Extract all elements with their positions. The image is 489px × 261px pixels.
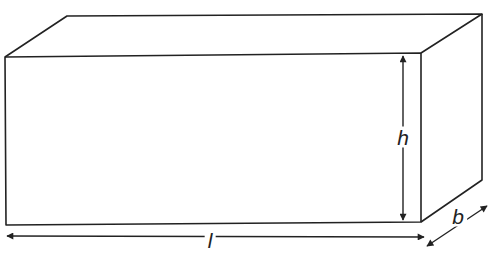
length-label: l <box>205 230 216 251</box>
right-face <box>421 14 482 222</box>
breadth-label: b <box>449 206 467 227</box>
length-arrow <box>7 236 424 237</box>
height-label: h <box>394 127 412 148</box>
cuboid-diagram <box>0 0 489 261</box>
front-face <box>5 53 421 225</box>
top-face <box>5 14 482 57</box>
